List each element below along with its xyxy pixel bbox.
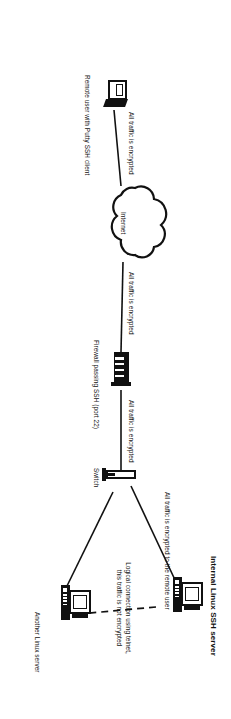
diagram-rotation-wrapper: Remote user with Putty SSH client Intern… — [0, 0, 231, 719]
edge-label-switch-to-ssh-server: All traffic is encrypted to the remote u… — [163, 492, 171, 610]
computer-base — [173, 577, 182, 612]
diagram-page: { "diagram": { "title": "SSH remote acce… — [0, 0, 231, 719]
edge-label-firewall-to-switch: All traffic is encrypted — [127, 400, 135, 463]
edge-label-internet-to-firewall: All traffic is encrypted — [127, 272, 135, 335]
monitor — [69, 590, 91, 614]
node-label-remote-user: Remote user with Putty SSH client — [83, 75, 91, 175]
switch-body — [106, 470, 136, 479]
edge-label-telnet-line-2: this traffic is not encrypted — [115, 560, 123, 656]
monitor-side — [72, 614, 88, 618]
firewall-body — [114, 352, 129, 382]
node-label-firewall: Firewall passing SSH (port 22) — [92, 340, 100, 429]
laptop-screen — [108, 80, 127, 100]
monitor — [181, 582, 203, 606]
node-label-switch: Switch — [92, 468, 100, 487]
node-label-internet: Internet — [119, 212, 127, 234]
diagram-canvas: Remote user with Putty SSH client Intern… — [0, 0, 231, 719]
switch-base — [102, 468, 106, 481]
edge-label-telnet-line-1: Logical connection using telnet, — [124, 560, 132, 656]
firewall-edge — [112, 382, 132, 386]
computer-base — [61, 585, 70, 620]
laptop-lid — [103, 99, 128, 107]
node-label-ssh-server: Internal Linux SSH server — [209, 556, 217, 656]
monitor-side — [184, 606, 200, 610]
node-label-another-server: Another Linux server — [33, 612, 41, 673]
edge-label-user-to-internet: All traffic is encrypted — [127, 112, 135, 175]
